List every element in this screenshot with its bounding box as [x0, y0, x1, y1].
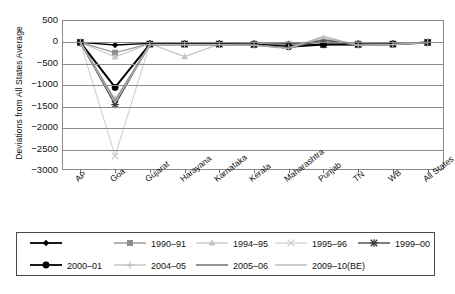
legend-marker-line-icon	[274, 259, 308, 273]
legend-label: 2009–10(BE)	[312, 262, 365, 271]
data-point-square	[127, 240, 133, 246]
legend-label: 2000–01	[67, 262, 102, 271]
x-axis-label: TN	[351, 169, 366, 184]
legend-marker-diamond-icon	[29, 237, 63, 251]
legend-row-1: 1990–911994–951995–961999–00	[17, 233, 434, 255]
data-point-diamond	[43, 240, 49, 246]
legend-item[interactable]	[29, 237, 67, 251]
data-point-circle	[43, 262, 50, 269]
x-axis-label: AP	[73, 169, 88, 184]
y-tick-label: −2500	[10, 144, 58, 154]
legend-marker-plus-icon	[113, 259, 147, 273]
series-line	[80, 42, 427, 156]
legend-item[interactable]: 2005–06	[195, 259, 268, 273]
data-point-asterisk	[370, 239, 378, 247]
legend-label: 1995–96	[312, 240, 347, 249]
legend-marker-triangle-icon	[195, 237, 229, 251]
y-tick-label: −3000	[10, 165, 58, 175]
legend-item[interactable]: 1995–96	[274, 237, 347, 251]
legend-item[interactable]: 1994–95	[195, 237, 268, 251]
legend-row-2: 2000–012004–052005–062009–10(BE)	[17, 255, 434, 277]
y-tick-label: −1000	[10, 79, 58, 89]
data-point-cross-light	[112, 153, 118, 159]
series-line	[80, 40, 427, 102]
y-tick-label: −1500	[10, 101, 58, 111]
gridline	[63, 64, 443, 65]
legend-label: 2005–06	[233, 262, 268, 271]
legend-key-line	[195, 259, 229, 271]
legend-key-square	[113, 237, 147, 249]
legend-item[interactable]: 2000–01	[29, 259, 102, 273]
data-point-plus	[127, 262, 134, 269]
y-tick-label: 500	[10, 15, 58, 25]
legend-marker-cross-light-icon	[274, 237, 308, 251]
y-tick-label: −500	[10, 58, 58, 68]
legend-key-plus	[113, 259, 147, 271]
gridline	[63, 85, 443, 86]
legend-key-diamond	[29, 237, 63, 249]
legend-marker-asterisk-icon	[357, 237, 391, 251]
legend-marker-circle-icon	[29, 259, 63, 273]
series-line	[80, 42, 427, 87]
plot-area	[62, 20, 444, 170]
legend-key-line	[274, 259, 308, 271]
y-tick-label: −2000	[10, 122, 58, 132]
gridline	[63, 128, 443, 129]
y-tick-label: 0	[10, 36, 58, 46]
legend-label: 1990–91	[151, 240, 186, 249]
chart-legend: 1990–911994–951995–961999–00 2000–012004…	[16, 232, 435, 276]
legend-item[interactable]: 2009–10(BE)	[274, 259, 365, 273]
gridline	[63, 107, 443, 108]
gridline	[63, 150, 443, 151]
gridline	[63, 42, 443, 43]
legend-key-asterisk	[357, 237, 391, 249]
legend-key-cross-light	[274, 237, 308, 249]
series-layer	[63, 21, 445, 171]
legend-label: 2004–05	[151, 262, 186, 271]
legend-label: 1999–00	[395, 240, 430, 249]
legend-marker-square-icon	[113, 237, 147, 251]
legend-item[interactable]: 1990–91	[113, 237, 186, 251]
legend-key-triangle	[195, 237, 229, 249]
legend-marker-line-icon	[195, 259, 229, 273]
legend-label: 1994–95	[233, 240, 268, 249]
legend-item[interactable]: 2004–05	[113, 259, 186, 273]
legend-key-circle	[29, 259, 63, 271]
legend-item[interactable]: 1999–00	[357, 237, 430, 251]
